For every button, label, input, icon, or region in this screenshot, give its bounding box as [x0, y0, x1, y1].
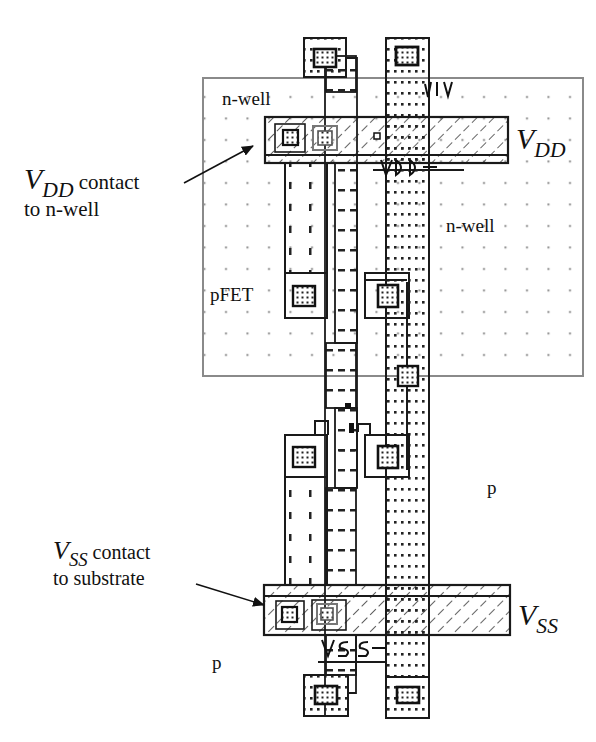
output-via [398, 366, 418, 386]
output-pad-top [396, 47, 418, 65]
layout-canvas [0, 0, 596, 742]
input-pad-top [304, 38, 346, 77]
pfet-drain-contact [378, 285, 398, 307]
vdd-nwell-contact [283, 130, 298, 145]
vss-substrate-contact [282, 607, 297, 622]
substrate-label-bottom: p [212, 653, 222, 672]
substrate-label-right: p [487, 478, 497, 497]
vdd-rail [265, 117, 508, 163]
nwell-label-right: n-well [446, 216, 495, 235]
vdd-rail-label: VDD [516, 124, 566, 161]
pfet-source-contact [293, 286, 315, 306]
input-pad-bottom [304, 675, 348, 716]
vss-rail [264, 585, 510, 635]
nfet-drain-contact [378, 446, 398, 468]
nwell-label-top: n-well [222, 89, 271, 108]
pfet-label: pFET [210, 285, 253, 304]
nfet-source-contact [293, 447, 315, 467]
vss-contact-callout: VSS contact to substrate [53, 538, 150, 588]
vdd-contact-callout: VDD contact to n-well [24, 164, 139, 220]
vss-rail-label: VSS [518, 600, 558, 637]
vss-contact-arrow [196, 584, 264, 605]
